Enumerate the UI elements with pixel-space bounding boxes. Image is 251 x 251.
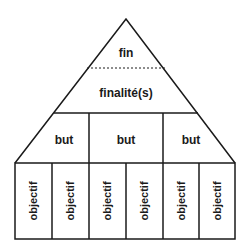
but-label-2: but <box>117 133 136 147</box>
but-label-1: but <box>55 133 74 147</box>
base-rect <box>15 163 235 239</box>
objectif-label-3: objectif <box>101 181 113 220</box>
pyramid-diagram: fin finalité(s) but but but objectif obj… <box>0 0 251 251</box>
objectif-label-1: objectif <box>27 181 39 220</box>
objectif-label-5: objectif <box>175 181 187 220</box>
objectif-label-6: objectif <box>211 181 223 220</box>
objectif-label-4: objectif <box>138 181 150 220</box>
but-label-3: but <box>182 133 201 147</box>
fin-label: fin <box>119 46 134 60</box>
finalite-label: finalité(s) <box>99 86 152 100</box>
objectif-label-2: objectif <box>64 181 76 220</box>
